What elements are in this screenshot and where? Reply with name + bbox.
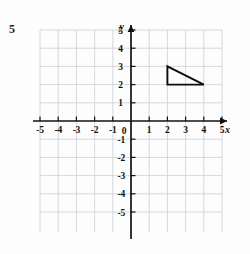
x-tick-label-2: 2 [165,125,170,135]
y-tick-label--1: -1 [117,135,125,145]
y-tick-label--5: -5 [117,208,125,218]
x-tick-label--4: -4 [54,125,62,135]
y-tick-label-3: 3 [118,62,123,72]
coordinate-grid-graph: -5 -4 -3 -2 -1 0 1 2 3 4 5 5 4 3 2 1 -1 … [31,21,231,243]
y-tick-label-4: 4 [118,44,123,54]
worksheet-page: 5 [0,0,250,254]
x-tick-label--1: -1 [109,125,117,135]
x-tick-label--3: -3 [73,125,81,135]
x-tick-label-1: 1 [147,125,152,135]
y-tick-label-1: 1 [118,98,123,108]
problem-number: 5 [9,23,15,35]
x-tick-label-4: 4 [201,125,206,135]
x-tick-label-5: 5 [220,125,225,135]
x-tick-label--5: -5 [36,125,44,135]
y-tick-label-2: 2 [118,80,123,90]
y-tick-label--4: -4 [117,189,125,199]
x-axis-label: x [224,124,230,135]
y-axis-label: y [119,21,125,32]
x-tick-label-3: 3 [183,125,188,135]
x-tick-label--2: -2 [91,125,99,135]
graph-canvas: -5 -4 -3 -2 -1 0 1 2 3 4 5 5 4 3 2 1 -1 … [31,21,231,243]
y-tick-label--3: -3 [117,171,125,181]
y-tick-label--2: -2 [117,153,125,163]
